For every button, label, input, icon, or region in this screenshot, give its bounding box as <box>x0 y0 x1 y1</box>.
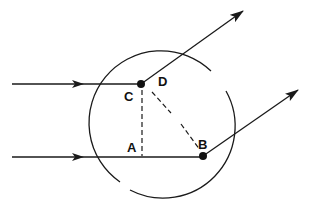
point-C <box>137 80 145 88</box>
scattered-ray-lower <box>203 90 298 156</box>
incident-rays <box>12 84 203 157</box>
construction-lines <box>142 90 200 156</box>
label-C: C <box>124 89 134 104</box>
label-A: A <box>127 140 137 155</box>
scattered-ray-upper <box>141 11 243 84</box>
circle-boundary <box>89 51 235 198</box>
dashed-line-DB-upper <box>152 92 171 113</box>
label-D: D <box>158 74 167 89</box>
circle-arc-main <box>89 51 211 182</box>
point-B <box>199 152 207 160</box>
scattering-diagram: C D A B <box>0 0 310 206</box>
label-B: B <box>198 137 207 152</box>
